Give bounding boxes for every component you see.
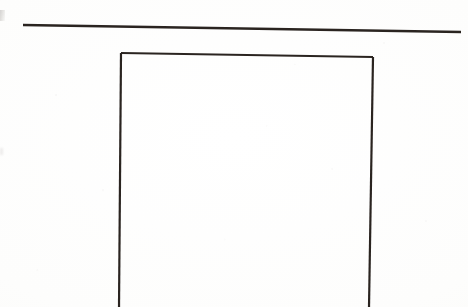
line-drawing-svg xyxy=(0,0,468,307)
top-horizontal-rule-line xyxy=(23,25,461,32)
rectangle-top-edge-line xyxy=(121,53,373,57)
scanned-page xyxy=(0,0,468,307)
rectangle-right-edge-line xyxy=(369,57,373,307)
left-edge-smudge-mark xyxy=(0,10,5,21)
rectangle-left-edge-line xyxy=(119,53,121,307)
left-edge-speck-mark xyxy=(0,148,3,155)
ink-drawing-layer xyxy=(0,0,468,307)
